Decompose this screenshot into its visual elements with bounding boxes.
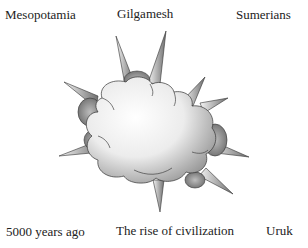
label-5000-years-ago: 5000 years ago bbox=[6, 224, 85, 240]
label-mesopotamia: Mesopotamia bbox=[5, 7, 76, 23]
label-sumerians: Sumerians bbox=[236, 7, 291, 23]
label-rise-of-civilization: The rise of civilization bbox=[116, 223, 234, 239]
burst-illustration bbox=[0, 0, 308, 248]
label-uruk: Uruk bbox=[266, 223, 293, 239]
label-gilgamesh: Gilgamesh bbox=[117, 6, 173, 22]
